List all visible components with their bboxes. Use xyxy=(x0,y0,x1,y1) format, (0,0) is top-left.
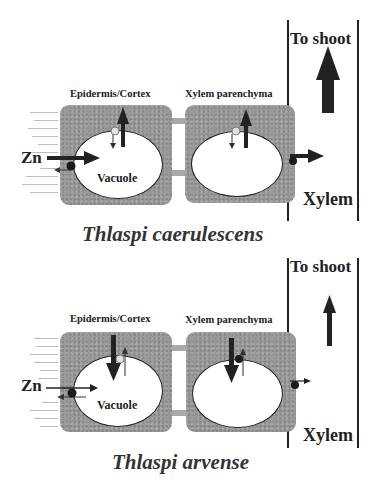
uptake-transporter-icon xyxy=(68,389,77,398)
flux-arrows xyxy=(0,0,381,250)
tonoplast-transporter-icon xyxy=(235,355,243,363)
tonoplast-transporter-icon xyxy=(111,127,119,135)
species-title: Thlaspi arvense xyxy=(112,450,249,475)
tonoplast-transporter-icon xyxy=(116,355,124,363)
to-shoot-arrow-thin xyxy=(323,295,336,346)
xylem-loading-transporter-icon xyxy=(291,381,299,389)
panel-thlaspi-arvense: To shoot Xylem Epidermis/Cortex Xylem pa… xyxy=(0,245,381,485)
to-shoot-arrow-thick xyxy=(316,46,340,113)
epidermis-tonoplast-efflux-arrow xyxy=(117,107,129,147)
tonoplast-transporter-icon xyxy=(232,127,240,135)
figure-caption-cropped xyxy=(0,483,381,490)
species-title: Thlaspi caerulescens xyxy=(82,222,263,247)
flux-arrows xyxy=(0,245,381,485)
xylem-loading-transporter-icon xyxy=(289,157,297,165)
uptake-transporter-icon xyxy=(67,162,76,171)
panel-thlaspi-caerulescens: To shoot Xylem Epidermis/Cortex Xylem pa… xyxy=(0,0,381,250)
parenchyma-tonoplast-efflux-arrow xyxy=(240,109,252,148)
